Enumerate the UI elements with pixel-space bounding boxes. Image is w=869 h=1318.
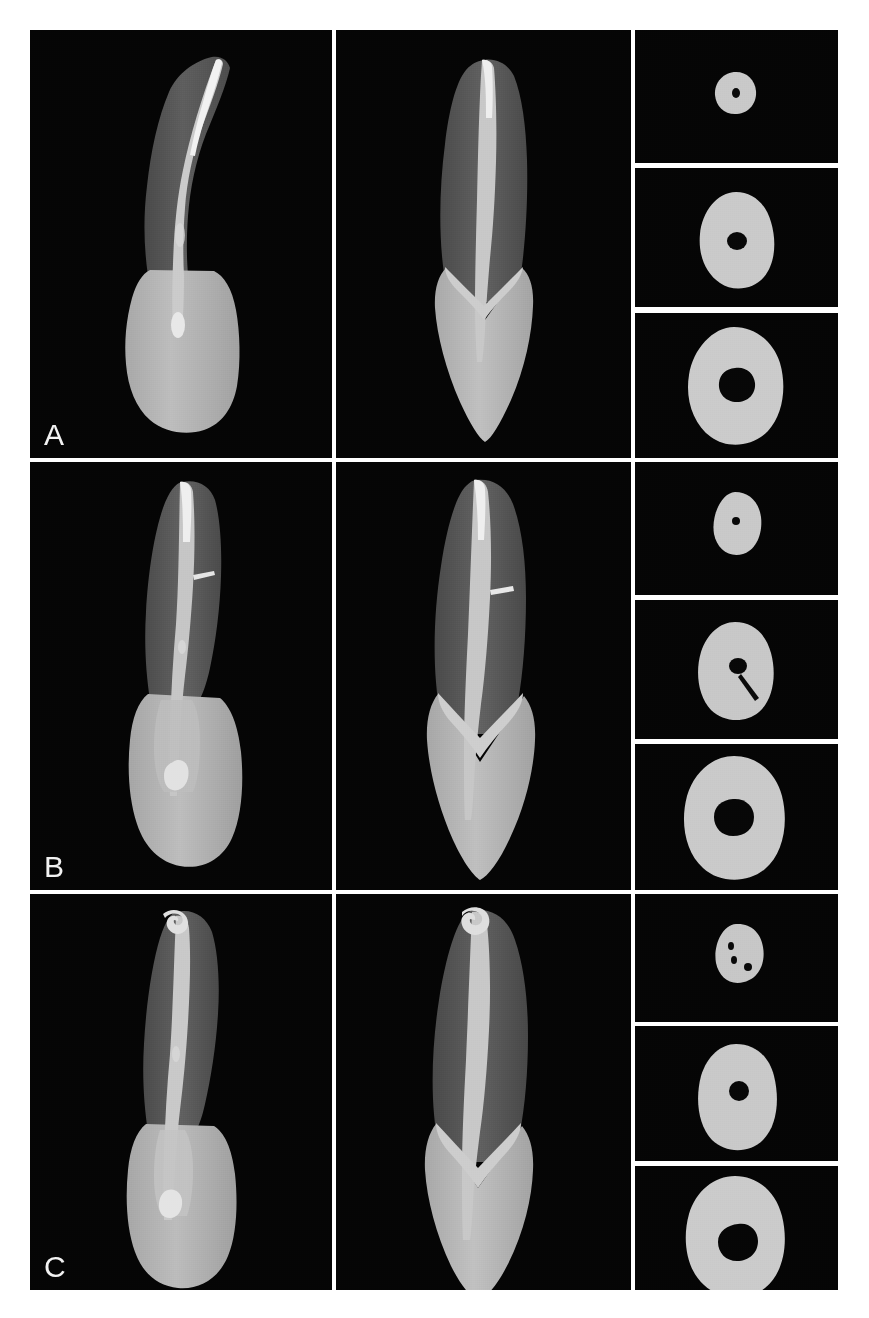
tooth-a-buccolingual-render	[30, 30, 332, 458]
tooth-c-buccolingual-render	[30, 894, 332, 1290]
section-b-apical-render	[635, 462, 838, 595]
panel-c-section-apical	[635, 894, 838, 1022]
section-a-middle-render	[635, 168, 838, 307]
panel-label-c: C	[44, 1252, 66, 1282]
panel-b-proximal	[336, 462, 631, 890]
section-c-apical-render	[635, 894, 838, 1022]
section-c-middle-render	[635, 1026, 838, 1161]
panel-b-section-middle	[635, 600, 838, 739]
section-a-apical-render	[635, 30, 838, 163]
panel-a-section-coronal	[635, 313, 838, 458]
panel-b-section-apical	[635, 462, 838, 595]
panel-label-a: A	[44, 420, 65, 450]
section-a-coronal-render	[635, 313, 838, 458]
panel-a-buccolingual: A	[30, 30, 332, 458]
panel-c-section-middle	[635, 1026, 838, 1161]
section-c-coronal-render	[635, 1166, 838, 1290]
panel-label-b: B	[44, 852, 65, 882]
panel-c-buccolingual: C	[30, 894, 332, 1290]
panel-b-buccolingual: B	[30, 462, 332, 890]
figure-root: A	[0, 0, 869, 1318]
panel-a-section-middle	[635, 168, 838, 307]
tooth-b-buccolingual-render	[30, 462, 332, 890]
tooth-c-proximal-render	[336, 894, 631, 1290]
panel-c-section-coronal	[635, 1166, 838, 1290]
tooth-a-proximal-render	[336, 30, 631, 458]
panel-a-section-apical	[635, 30, 838, 163]
section-b-coronal-render	[635, 744, 838, 890]
panel-a-proximal	[336, 30, 631, 458]
panel-c-proximal	[336, 894, 631, 1290]
section-b-middle-render	[635, 600, 838, 739]
tooth-b-proximal-render	[336, 462, 631, 890]
panel-b-section-coronal	[635, 744, 838, 890]
